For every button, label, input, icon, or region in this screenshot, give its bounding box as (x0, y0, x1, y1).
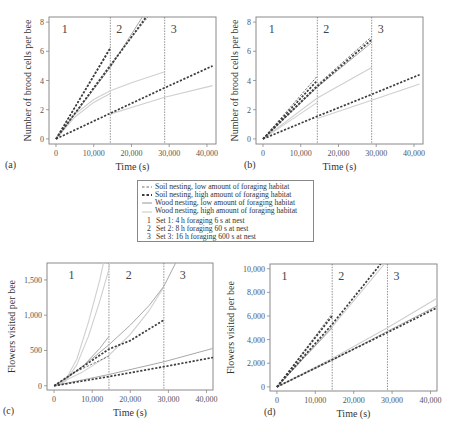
y-axis-title: Flowers visited per bee (225, 280, 236, 374)
y-tick-label: 10,000 (243, 265, 265, 274)
y-tick-label: 8,000 (247, 288, 265, 297)
y-tick-label: 0 (261, 383, 265, 392)
plot-frame (270, 264, 437, 391)
chart-panel-d: 010,00020,00030,00040,00002,0004,0006,00… (0, 0, 452, 434)
x-tick-label: 0 (275, 396, 279, 405)
x-tick-label: 30,000 (381, 396, 403, 405)
region-label: 1 (282, 269, 288, 283)
y-tick-label: 2,000 (247, 359, 265, 368)
x-tick-label: 10,000 (304, 396, 326, 405)
y-tick-label: 4,000 (247, 336, 265, 345)
x-tick-label: 40,000 (419, 396, 441, 405)
y-tick-label: 6,000 (247, 312, 265, 321)
region-label: 3 (394, 269, 400, 283)
x-axis-title: Time (s) (337, 408, 371, 420)
x-tick-label: 20,000 (343, 396, 365, 405)
region-label: 2 (338, 269, 344, 283)
chart-svg-d: 010,00020,00030,00040,00002,0004,0006,00… (0, 0, 452, 434)
panel-label: (d) (264, 406, 276, 418)
